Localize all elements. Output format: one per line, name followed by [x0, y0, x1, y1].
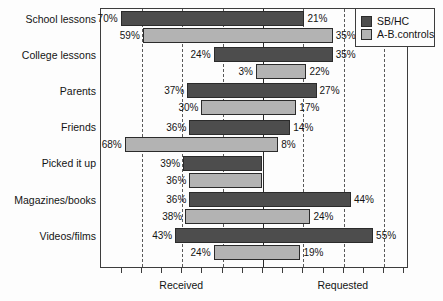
legend-swatch-controls: [361, 29, 372, 40]
value-label-received-2-1: 30%: [178, 100, 198, 115]
bar-1-0: [214, 47, 333, 62]
value-label-requested-1-0: 35%: [336, 47, 356, 62]
axis-label-received: Received: [159, 279, 203, 291]
value-label-received-1-1: 3%: [239, 64, 253, 79]
axis-tick: [323, 268, 324, 273]
value-label-received-1-0: 24%: [191, 47, 211, 62]
legend-item-sbhc: SB/HC: [361, 15, 429, 27]
value-label-received-4-0: 39%: [160, 156, 180, 171]
axis-tick: [222, 268, 223, 273]
axis-tick: [121, 268, 122, 273]
bar-2-0: [187, 83, 316, 98]
bar-5-1: [185, 209, 310, 224]
value-label-requested-3-1: 8%: [281, 137, 295, 152]
bar-3-1: [125, 137, 279, 152]
legend-label-controls: A-B.controls: [377, 28, 434, 40]
bar-6-1: [214, 245, 301, 260]
legend-swatch-sbhc: [361, 16, 372, 27]
bar-4-0: [183, 156, 262, 171]
bar-0-1: [143, 28, 333, 43]
axis-tick: [282, 268, 283, 273]
value-label-requested-5-0: 44%: [354, 192, 374, 207]
axis-tick: [363, 268, 364, 273]
value-label-requested-0-1: 35%: [336, 28, 356, 43]
category-label-3: Friends: [0, 121, 96, 133]
axis-label-requested: Requested: [317, 279, 368, 291]
bar-6-0: [175, 228, 373, 243]
chart-legend: SB/HC A-B.controls: [355, 8, 435, 47]
axis-tick: [262, 268, 263, 273]
category-label-4: Picked it up: [0, 157, 96, 169]
bar-1-1: [256, 64, 307, 79]
axis-tick: [343, 268, 344, 273]
value-label-received-3-0: 36%: [166, 120, 186, 135]
bar-4-1: [189, 173, 262, 188]
bar-5-0: [189, 192, 351, 207]
category-label-5: Magazines/books: [0, 194, 96, 206]
value-label-received-2-0: 37%: [164, 83, 184, 98]
diverging-bar-chart: School lessons70%21%59%35%College lesson…: [0, 0, 443, 301]
legend-label-sbhc: SB/HC: [377, 15, 409, 27]
value-label-requested-6-1: 19%: [303, 245, 323, 260]
value-label-requested-1-1: 22%: [309, 64, 329, 79]
bar-2-1: [201, 100, 296, 115]
value-label-requested-0-0: 21%: [307, 11, 327, 26]
value-label-received-5-0: 36%: [166, 192, 186, 207]
axis-tick: [201, 268, 202, 273]
axis-tick: [161, 268, 162, 273]
value-label-received-3-1: 68%: [102, 137, 122, 152]
legend-item-controls: A-B.controls: [361, 28, 429, 40]
value-label-received-6-0: 43%: [152, 228, 172, 243]
axis-tick: [181, 268, 182, 273]
value-label-received-4-1: 36%: [166, 173, 186, 188]
value-label-received-5-1: 38%: [162, 209, 182, 224]
axis-tick: [383, 268, 384, 273]
category-label-0: School lessons: [0, 13, 96, 25]
axis-tick: [141, 268, 142, 273]
axis-tick: [403, 268, 404, 273]
value-label-received-6-1: 24%: [191, 245, 211, 260]
value-label-received-0-0: 70%: [98, 11, 118, 26]
category-label-1: College lessons: [0, 49, 96, 61]
bar-0-0: [121, 11, 305, 26]
value-label-requested-6-0: 55%: [376, 228, 396, 243]
bar-3-0: [189, 120, 290, 135]
value-label-requested-2-1: 17%: [299, 100, 319, 115]
axis-tick: [302, 268, 303, 273]
value-label-requested-2-0: 27%: [320, 83, 340, 98]
category-label-2: Parents: [0, 85, 96, 97]
value-label-requested-3-0: 14%: [293, 120, 313, 135]
category-label-6: Videos/films: [0, 230, 96, 242]
value-label-received-0-1: 59%: [120, 28, 140, 43]
value-label-requested-5-1: 24%: [313, 209, 333, 224]
axis-tick: [242, 268, 243, 273]
